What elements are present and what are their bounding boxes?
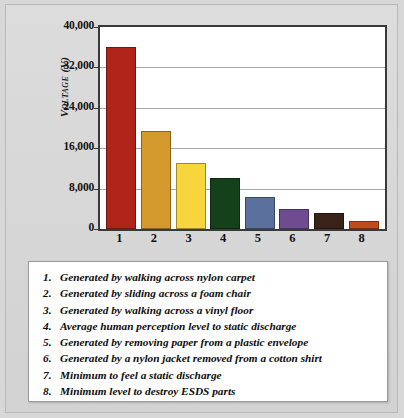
bar-slot <box>314 27 344 229</box>
y-tick-label: 32,000 <box>36 59 94 71</box>
legend-box: 1.Generated by walking across nylon carp… <box>28 261 388 402</box>
bar-2[interactable] <box>141 131 171 229</box>
legend-item-label: Generated by walking across a vinyl floo… <box>60 302 377 318</box>
bars-layer <box>100 27 385 229</box>
legend-item-number: 3. <box>43 302 60 318</box>
bar-4[interactable] <box>210 178 240 229</box>
x-tick-label: 1 <box>104 231 134 251</box>
legend-item-number: 7. <box>43 367 60 383</box>
bar-7[interactable] <box>314 213 344 229</box>
y-tick-label: 0 <box>36 221 94 233</box>
legend-item-label: Generated by walking across nylon carpet <box>60 269 377 285</box>
legend-item-label: Generated by removing paper from a plast… <box>60 334 377 350</box>
y-tick-label: 8,000 <box>36 181 94 193</box>
x-tick-label: 5 <box>243 231 273 251</box>
bar-slot <box>210 27 240 229</box>
bar-slot <box>141 27 171 229</box>
legend-item: 7.Minimum to feel a static discharge <box>43 367 377 383</box>
legend-item: 1.Generated by walking across nylon carp… <box>43 269 377 285</box>
legend-item-label: Generated by sliding across a foam chair <box>60 285 377 301</box>
bar-1[interactable] <box>106 47 136 229</box>
bar-slot <box>279 27 309 229</box>
legend-item-label: Minimum level to destroy ESDS parts <box>60 383 377 399</box>
x-tick-label: 3 <box>174 231 204 251</box>
y-axis-tick <box>94 229 100 230</box>
y-tick-label: 24,000 <box>36 100 94 112</box>
x-tick-label: 4 <box>208 231 238 251</box>
bar-slot <box>245 27 275 229</box>
bar-3[interactable] <box>176 163 206 229</box>
bar-8[interactable] <box>349 221 379 229</box>
legend-item-number: 1. <box>43 269 60 285</box>
figure-root: Voltage (V) 40,00032,00024,00016,0008,00… <box>0 0 404 418</box>
bar-slot <box>349 27 379 229</box>
x-tick-label: 8 <box>347 231 377 251</box>
bar-slot <box>176 27 206 229</box>
legend-item-number: 5. <box>43 334 60 350</box>
bar-6[interactable] <box>279 209 309 229</box>
legend-item: 2.Generated by sliding across a foam cha… <box>43 285 377 301</box>
x-axis-tick-labels: 12345678 <box>98 231 383 251</box>
legend-item-number: 4. <box>43 318 60 334</box>
x-tick-label: 7 <box>312 231 342 251</box>
x-tick-label: 2 <box>139 231 169 251</box>
figure-frame: Voltage (V) 40,00032,00024,00016,0008,00… <box>5 4 398 413</box>
bar-5[interactable] <box>245 197 275 229</box>
y-tick-label: 16,000 <box>36 140 94 152</box>
bar-slot <box>106 27 136 229</box>
legend-item-label: Minimum to feel a static discharge <box>60 367 377 383</box>
legend-item-label: Average human perception level to static… <box>60 318 377 334</box>
x-tick-label: 6 <box>277 231 307 251</box>
legend-item: 5.Generated by removing paper from a pla… <box>43 334 377 350</box>
legend-item: 4.Average human perception level to stat… <box>43 318 377 334</box>
plot-area <box>98 25 387 231</box>
legend-item: 3.Generated by walking across a vinyl fl… <box>43 302 377 318</box>
legend-item: 8.Minimum level to destroy ESDS parts <box>43 383 377 399</box>
legend-item-number: 6. <box>43 350 60 366</box>
legend-item: 6.Generated by a nylon jacket removed fr… <box>43 350 377 366</box>
legend-item-number: 2. <box>43 285 60 301</box>
bar-chart: Voltage (V) 40,00032,00024,00016,0008,00… <box>18 13 388 253</box>
y-axis-tick-labels: 40,00032,00024,00016,0008,0000 <box>36 13 94 239</box>
legend-item-number: 8. <box>43 383 60 399</box>
legend-item-label: Generated by a nylon jacket removed from… <box>60 350 377 366</box>
y-tick-label: 40,000 <box>36 19 94 31</box>
